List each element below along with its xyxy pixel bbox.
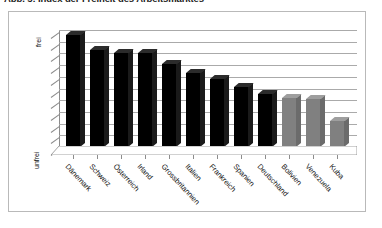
bar <box>282 98 297 147</box>
bar <box>90 50 105 147</box>
y-axis-label-top: frei <box>35 37 42 47</box>
page-title: Abb. 5: Index der Freiheit des Arbeitsma… <box>4 0 378 5</box>
bar-side-face <box>224 75 229 147</box>
bar-front-face <box>162 64 177 147</box>
x-axis-tick <box>145 155 146 159</box>
x-axis-category-label: Irland <box>135 162 154 182</box>
bar-side-face <box>344 117 349 147</box>
bar <box>258 94 273 147</box>
bar-front-face <box>114 53 129 147</box>
chart-frame: frei unfrei DänemarkSchweizÖsterreichIrl… <box>8 11 366 212</box>
bar-side-face <box>128 49 133 147</box>
x-axis-tick <box>121 155 122 159</box>
x-axis-tick <box>265 155 266 159</box>
bar <box>114 53 129 147</box>
bar-front-face <box>210 79 225 147</box>
x-axis-tick <box>169 155 170 159</box>
bar <box>306 99 321 147</box>
bar-front-face <box>282 98 297 147</box>
x-axis-tick <box>193 155 194 159</box>
gridline <box>59 42 357 43</box>
x-axis-category-labels: DänemarkSchweizÖsterreichIrlandGrossbrit… <box>51 162 371 224</box>
x-axis-category-label: Bolivien <box>279 162 303 187</box>
plot-area <box>51 30 357 155</box>
x-axis-tick <box>217 155 218 159</box>
bar-side-face <box>320 95 325 147</box>
bar-front-face <box>306 99 321 147</box>
bar-side-face <box>176 60 181 147</box>
bar-front-face <box>186 73 201 147</box>
bar-front-face <box>66 35 81 147</box>
bar-side-face <box>296 94 301 147</box>
bar <box>234 87 249 147</box>
y-axis-label-bottom: unfrei <box>33 151 40 169</box>
bar-front-face <box>138 53 153 147</box>
x-axis-tick <box>313 155 314 159</box>
bar-side-face <box>200 69 205 147</box>
bar <box>210 79 225 147</box>
bar <box>66 35 81 147</box>
bar-front-face <box>90 50 105 147</box>
x-axis-tick <box>337 155 338 159</box>
x-axis-category-label: Italien <box>183 162 203 183</box>
x-axis-tick <box>97 155 98 159</box>
bar-front-face <box>330 121 345 147</box>
bar-side-face <box>152 49 157 147</box>
bar-front-face <box>234 87 249 147</box>
x-axis-tick <box>73 155 74 159</box>
bar <box>138 53 153 147</box>
bar <box>186 73 201 147</box>
bar-front-face <box>258 94 273 147</box>
bar-side-face <box>104 46 109 147</box>
bar-side-face <box>272 90 277 147</box>
bar-side-face <box>248 83 253 147</box>
x-axis-category-label: Kuba <box>327 162 345 181</box>
x-axis-tick <box>241 155 242 159</box>
chart-floor <box>51 146 357 155</box>
bar <box>330 121 345 147</box>
bar-side-face <box>80 31 85 147</box>
bar <box>162 64 177 147</box>
gridline <box>59 30 357 31</box>
x-axis-tick <box>289 155 290 159</box>
